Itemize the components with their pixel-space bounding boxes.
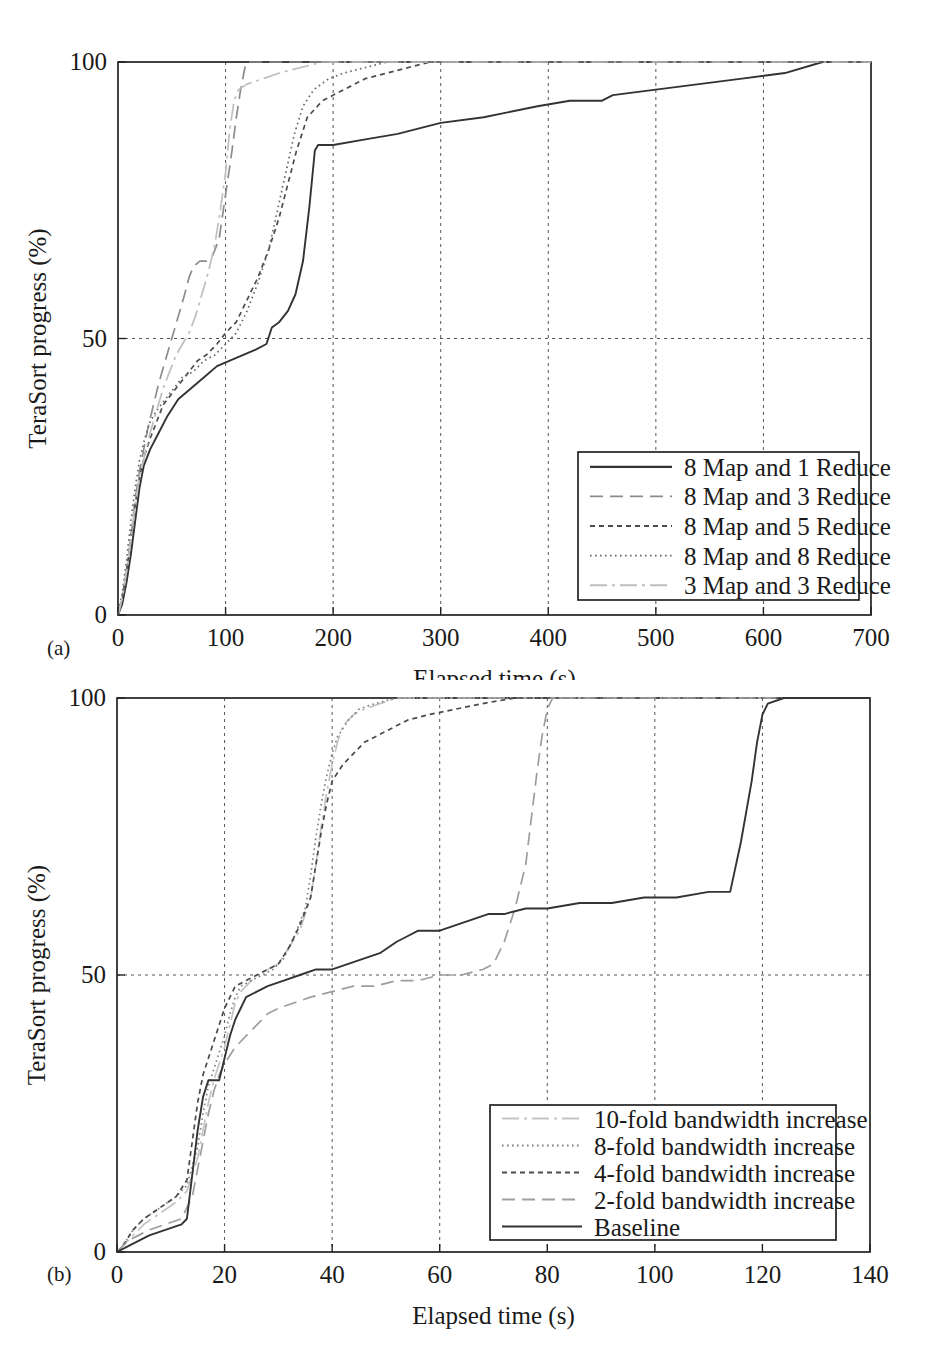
x-axis: 0100200300400500600700 — [112, 607, 890, 651]
x-tick-label: 80 — [535, 1261, 560, 1288]
legend-label: 8 Map and 1 Reduce — [684, 454, 891, 481]
chart-b-svg: 020406080100120140Elapsed time (s)050100… — [0, 672, 929, 1363]
legend-label: 8-fold bandwidth increase — [594, 1133, 855, 1160]
legend-label: 2-fold bandwidth increase — [594, 1187, 855, 1214]
chart-a-svg: 0100200300400500600700Elapsed time (s)05… — [0, 0, 929, 680]
y-tick-label: 100 — [69, 684, 107, 711]
y-axis-title: TeraSort progress (%) — [24, 228, 52, 448]
x-tick-label: 140 — [851, 1261, 889, 1288]
x-tick-label: 20 — [212, 1261, 237, 1288]
x-tick-label: 500 — [637, 624, 675, 651]
x-tick-label: 0 — [112, 624, 125, 651]
x-axis: 020406080100120140 — [111, 1244, 889, 1288]
y-tick-label: 0 — [94, 1238, 107, 1265]
y-tick-label: 50 — [82, 325, 107, 352]
x-tick-label: 0 — [111, 1261, 124, 1288]
legend-label: Baseline — [594, 1214, 680, 1241]
x-tick-label: 100 — [207, 624, 245, 651]
x-tick-label: 40 — [320, 1261, 345, 1288]
chart-panel-a: 0100200300400500600700Elapsed time (s)05… — [0, 0, 929, 680]
y-axis-title: TeraSort progress (%) — [23, 865, 51, 1085]
legend-label: 8 Map and 5 Reduce — [684, 513, 891, 540]
x-tick-label: 200 — [314, 624, 352, 651]
legend-label: 8 Map and 8 Reduce — [684, 543, 891, 570]
legend-label: 8 Map and 3 Reduce — [684, 483, 891, 510]
legend-label: 4-fold bandwidth increase — [594, 1160, 855, 1187]
x-tick-label: 100 — [636, 1261, 674, 1288]
x-tick-label: 400 — [530, 624, 568, 651]
chart-legend: 8 Map and 1 Reduce8 Map and 3 Reduce8 Ma… — [578, 452, 891, 600]
x-tick-label: 700 — [852, 624, 890, 651]
legend-label: 10-fold bandwidth increase — [594, 1106, 868, 1133]
chart-legend: 10-fold bandwidth increase8-fold bandwid… — [490, 1105, 868, 1241]
x-tick-label: 300 — [422, 624, 460, 651]
y-tick-label: 100 — [70, 48, 108, 75]
figure-container: 0100200300400500600700Elapsed time (s)05… — [0, 0, 929, 1363]
x-axis-title: Elapsed time (s) — [412, 1302, 574, 1330]
panel-label-b: (b) — [47, 1262, 72, 1287]
legend-label: 3 Map and 3 Reduce — [684, 572, 891, 599]
x-tick-label: 600 — [745, 624, 783, 651]
y-tick-label: 50 — [81, 961, 106, 988]
y-tick-label: 0 — [95, 601, 108, 628]
chart-panel-b: 020406080100120140Elapsed time (s)050100… — [0, 672, 929, 1363]
panel-label-a: (a) — [47, 636, 70, 661]
x-tick-label: 60 — [427, 1261, 452, 1288]
x-tick-label: 120 — [744, 1261, 782, 1288]
